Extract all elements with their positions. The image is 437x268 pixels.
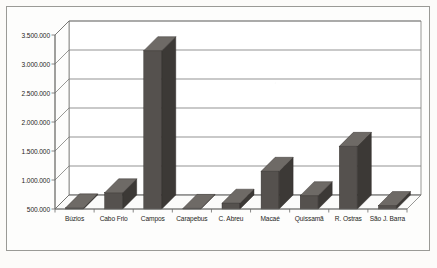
- chart-plot-svg: [7, 7, 429, 250]
- bar-front-face: [222, 203, 240, 209]
- x-axis-ticks: [55, 209, 407, 213]
- bar-8: [339, 132, 371, 209]
- chart-frame-border: 500.0001.000.0001.500.0002.000.0002.500.…: [6, 6, 430, 251]
- y-tick-label: 3.500.000: [22, 32, 50, 39]
- bar-front-face: [300, 196, 318, 209]
- y-tick-label: 500.000: [27, 206, 50, 213]
- y-tick-label: 1.000.000: [22, 177, 50, 184]
- bar-side-face: [162, 37, 176, 209]
- bar-front-face: [378, 206, 396, 209]
- bar-3: [144, 37, 176, 209]
- y-axis: 500.0001.000.0001.500.0002.000.0002.500.…: [7, 7, 50, 250]
- bar-front-face: [261, 171, 279, 209]
- y-tick-label: 1.500.000: [22, 148, 50, 155]
- bar-chart: 500.0001.000.0001.500.0002.000.0002.500.…: [7, 7, 429, 250]
- scanned-page-background: 500.0001.000.0001.500.0002.000.0002.500.…: [0, 0, 437, 268]
- y-tick-label: 3.000.000: [22, 61, 50, 68]
- y-tick-label: 2.000.000: [22, 119, 50, 126]
- bar-front-face: [144, 51, 162, 209]
- bar-front-face: [105, 193, 123, 209]
- y-tick-label: 2.500.000: [22, 90, 50, 97]
- y-axis-ticks: [52, 35, 56, 209]
- bar-front-face: [339, 146, 357, 209]
